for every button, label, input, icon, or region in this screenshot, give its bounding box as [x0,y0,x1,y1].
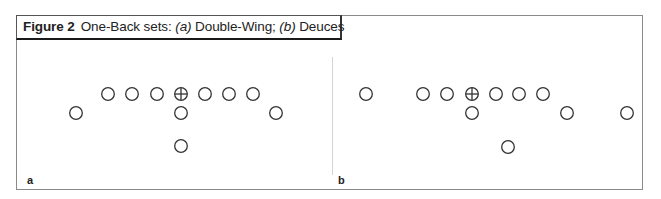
player-circle-icon [70,107,83,120]
player-circle-icon [417,88,430,101]
panel-b-formation [360,88,634,154]
player-circle-icon [199,88,212,101]
player-circle-icon [223,88,236,101]
panel-a-formation [70,88,283,153]
player-circle-icon [513,88,526,101]
player-circle-icon [360,88,373,101]
player-circle-icon [466,107,479,120]
panel-b-label: b [338,174,345,186]
player-circle-icon [502,141,515,154]
center-marker-icon [466,88,479,101]
player-circle-icon [102,88,115,101]
player-circle-icon [126,88,139,101]
player-circle-icon [441,88,454,101]
formation-diagram [0,0,661,199]
center-marker-icon [175,88,188,101]
player-circle-icon [175,140,188,153]
player-circle-icon [537,88,550,101]
player-circle-icon [561,107,574,120]
player-circle-icon [247,88,260,101]
panel-a-label: a [27,174,33,186]
player-circle-icon [621,107,634,120]
player-circle-icon [490,88,503,101]
player-circle-icon [175,107,188,120]
player-circle-icon [151,88,164,101]
player-circle-icon [270,107,283,120]
